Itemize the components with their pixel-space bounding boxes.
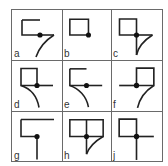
glyph-stroke (21, 86, 39, 108)
cell-label: d (14, 100, 20, 110)
glyph-stroke (120, 19, 137, 35)
glyph-stroke (70, 69, 87, 86)
glyph-grid: abcdefghj (11, 9, 163, 162)
glyph-cell-d: d (12, 60, 62, 111)
glyph-stroke (137, 68, 154, 85)
cell-label: b (64, 49, 70, 59)
cell-label: e (64, 100, 70, 110)
glyph-cell-e: e (62, 60, 111, 111)
junction-dot (34, 83, 39, 88)
glyph-cell-j: j (111, 111, 162, 162)
glyph-cell-b: b (62, 10, 111, 60)
glyph-stroke (21, 120, 37, 137)
glyph-cell-h: h (62, 111, 111, 162)
junction-dot (86, 32, 91, 37)
glyph-cell-c: c (111, 10, 162, 60)
junction-dot (134, 83, 139, 88)
junction-dot (84, 83, 89, 88)
glyph-stroke (138, 86, 154, 108)
glyph-drawing (111, 10, 162, 60)
junction-dot (84, 134, 89, 139)
junction-dot (134, 134, 139, 139)
glyph-drawing (111, 111, 162, 162)
glyph-stroke (22, 20, 40, 35)
glyph-stroke (36, 35, 54, 57)
junction-dot (34, 134, 39, 139)
glyph-cell-g: g (12, 111, 62, 162)
cell-label: a (14, 49, 20, 59)
glyph-stroke (137, 35, 153, 55)
glyph-cell-f: f (111, 60, 162, 111)
cell-label: g (14, 151, 20, 161)
glyph-stroke (70, 86, 89, 108)
cell-label: h (64, 151, 70, 161)
glyph-stroke (87, 137, 104, 155)
cell-label: f (113, 100, 116, 110)
glyph-drawing (111, 60, 162, 111)
junction-dot (37, 32, 42, 37)
junction-dot (134, 32, 139, 37)
cell-label: c (113, 49, 118, 59)
glyph-stroke (70, 19, 89, 35)
glyph-stroke (119, 119, 136, 136)
glyph-cell-a: a (12, 10, 62, 60)
cell-label: j (113, 151, 115, 161)
glyph-stroke (21, 69, 37, 86)
